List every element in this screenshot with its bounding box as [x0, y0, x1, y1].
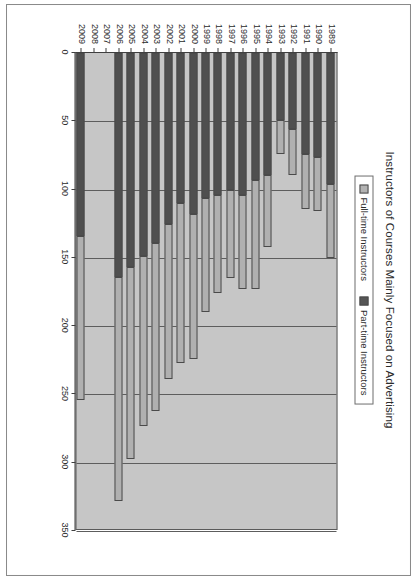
- bar-stack: [251, 53, 259, 289]
- category-axis-label: 2002: [164, 6, 174, 44]
- value-axis-tick: [71, 325, 75, 326]
- bar-segment-full-time: [139, 256, 147, 425]
- category-axis-label: 2003: [151, 6, 161, 44]
- bar-segment-full-time: [164, 224, 172, 380]
- value-axis-tick: [71, 393, 75, 394]
- category-axis-label: 1999: [201, 6, 211, 44]
- category-axis-label: 2007: [101, 6, 111, 44]
- bar-segment-part-time: [76, 53, 84, 236]
- bar-stack: [176, 53, 184, 363]
- category-axis-tick: [242, 48, 243, 52]
- bar-segment-full-time: [326, 184, 334, 258]
- value-axis-tick: [71, 530, 75, 531]
- category-axis-label: 1994: [263, 6, 273, 44]
- category-axis-tick: [168, 48, 169, 52]
- category-axis-label: 2004: [139, 6, 149, 44]
- bar-segment-part-time: [114, 53, 122, 277]
- chart-legend: Full-time Instructors Part-time Instruct…: [354, 176, 373, 405]
- category-axis-label: 2009: [76, 6, 86, 44]
- category-axis-tick: [180, 48, 181, 52]
- bar-segment-part-time: [226, 53, 234, 190]
- scanned-page: Instructors of Courses Mainly Focused on…: [0, 0, 417, 582]
- category-axis-tick: [230, 48, 231, 52]
- value-axis-tick: [71, 257, 75, 258]
- bar-segment-full-time: [251, 180, 259, 289]
- bar-segment-full-time: [288, 129, 296, 174]
- value-axis-tick: [71, 189, 75, 190]
- value-axis-label: 350: [59, 522, 69, 537]
- bar-segment-full-time: [213, 195, 221, 293]
- value-axis-label: 50: [59, 115, 69, 125]
- category-axis-tick: [280, 48, 281, 52]
- category-axis-tick: [217, 48, 218, 52]
- bar-segment-full-time: [151, 243, 159, 411]
- legend-label-full-time: Full-time Instructors: [358, 198, 369, 281]
- bar-segment-full-time: [114, 277, 122, 501]
- category-axis-label: 1998: [213, 6, 223, 44]
- bar-segment-part-time: [164, 53, 172, 224]
- category-axis-label: 1993: [276, 6, 286, 44]
- bar-segment-full-time: [126, 267, 134, 458]
- value-axis-label: 300: [59, 454, 69, 469]
- legend-swatch-part-time-icon: [359, 297, 368, 306]
- bar-segment-part-time: [251, 53, 259, 180]
- value-axis-label: 100: [59, 181, 69, 196]
- bar-segment-part-time: [326, 53, 334, 184]
- category-axis-tick: [105, 48, 106, 52]
- bar-stack: [201, 53, 209, 312]
- category-axis-tick: [143, 48, 144, 52]
- bar-segment-full-time: [226, 190, 234, 279]
- value-axis-tick: [71, 462, 75, 463]
- value-axis-line: [74, 52, 75, 530]
- category-axis-label: 1995: [251, 6, 261, 44]
- category-axis-tick: [255, 48, 256, 52]
- bar-segment-part-time: [189, 53, 197, 214]
- bar-segment-part-time: [276, 53, 284, 120]
- legend-swatch-full-time-icon: [359, 185, 368, 194]
- bar-segment-full-time: [263, 175, 271, 247]
- rotated-chart-wrapper: Instructors of Courses Mainly Focused on…: [8, 6, 409, 574]
- bar-stack: [263, 53, 271, 247]
- bar-segment-part-time: [176, 53, 184, 203]
- bar-stack: [164, 53, 172, 379]
- bar-stack: [139, 53, 147, 426]
- category-axis-tick: [130, 48, 131, 52]
- legend-item-part-time: Part-time Instructors: [358, 297, 369, 396]
- category-axis-label: 1991: [301, 6, 311, 44]
- bar-segment-part-time: [238, 53, 246, 195]
- stacked-bar-chart: Instructors of Courses Mainly Focused on…: [8, 6, 409, 574]
- value-axis-tick: [71, 52, 75, 53]
- category-axis-tick: [118, 48, 119, 52]
- bar-stack: [189, 53, 197, 359]
- bar-segment-full-time: [189, 214, 197, 359]
- bar-segment-full-time: [238, 195, 246, 289]
- bar-segment-part-time: [201, 53, 209, 198]
- category-axis-label: 2006: [114, 6, 124, 44]
- category-axis-tick: [317, 48, 318, 52]
- category-axis-tick: [330, 48, 331, 52]
- category-axis-tick: [292, 48, 293, 52]
- bar-stack: [126, 53, 134, 459]
- gridline: [76, 531, 336, 532]
- bar-stack: [313, 53, 321, 211]
- category-axis-label: 2005: [126, 6, 136, 44]
- category-axis-tick: [267, 48, 268, 52]
- chart-title: Instructors of Courses Mainly Focused on…: [383, 6, 395, 574]
- category-axis-label: 2000: [189, 6, 199, 44]
- bar-segment-part-time: [213, 53, 221, 195]
- category-axis-tick: [205, 48, 206, 52]
- value-axis-label: 150: [59, 249, 69, 264]
- value-axis-label: 200: [59, 318, 69, 333]
- bar-segment-part-time: [263, 53, 271, 175]
- category-axis-tick: [155, 48, 156, 52]
- bar-stack: [276, 53, 284, 154]
- bar-stack: [301, 53, 309, 209]
- category-axis-label: 1990: [313, 6, 323, 44]
- category-axis-label: 1989: [326, 6, 336, 44]
- bar-stack: [151, 53, 159, 411]
- bar-segment-part-time: [301, 53, 309, 154]
- legend-item-full-time: Full-time Instructors: [358, 185, 369, 281]
- bar-segment-full-time: [201, 198, 209, 313]
- bar-stack: [238, 53, 246, 289]
- bar-stack: [226, 53, 234, 278]
